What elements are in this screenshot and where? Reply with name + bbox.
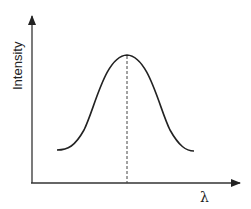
gaussian-peak-diagram: Intensity λ xyxy=(0,0,251,209)
diagram-root: Intensity λ xyxy=(0,0,251,209)
intensity-curve xyxy=(57,55,194,151)
y-axis-label: Intensity xyxy=(10,41,25,90)
x-axis-label: λ xyxy=(200,189,209,205)
